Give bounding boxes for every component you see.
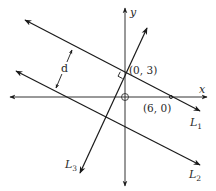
line-l2 [16, 71, 200, 165]
line-l3 [80, 28, 147, 173]
point-label-0-3: (0, 3) [129, 64, 157, 76]
line-label-l1: L1 [189, 116, 202, 131]
line-label-l2: L2 [188, 168, 201, 183]
distance-label: d [61, 62, 68, 75]
point-label-6-0: (6, 0) [143, 102, 171, 114]
line-label-l3: L3 [64, 158, 77, 173]
y-axis-label: y [129, 6, 137, 19]
coordinate-diagram: d y x (0, 3) (6, 0) L1 L2 L3 [0, 0, 216, 191]
x-axis-label: x [199, 83, 206, 96]
right-angle-marker [118, 72, 123, 79]
